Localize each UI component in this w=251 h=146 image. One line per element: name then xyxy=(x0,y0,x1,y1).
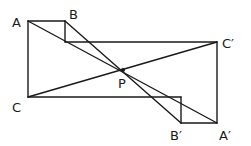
label-C-prime: C′ xyxy=(222,36,234,51)
label-A-prime: A′ xyxy=(219,128,231,143)
label-B-prime: B′ xyxy=(170,128,182,143)
label-P: P xyxy=(118,76,126,91)
label-A: A xyxy=(12,15,21,30)
label-C: C xyxy=(12,100,21,115)
geometry-diagram: A B C′ C P B′ A′ xyxy=(0,0,251,146)
label-B: B xyxy=(69,7,78,22)
point-P xyxy=(121,68,125,72)
